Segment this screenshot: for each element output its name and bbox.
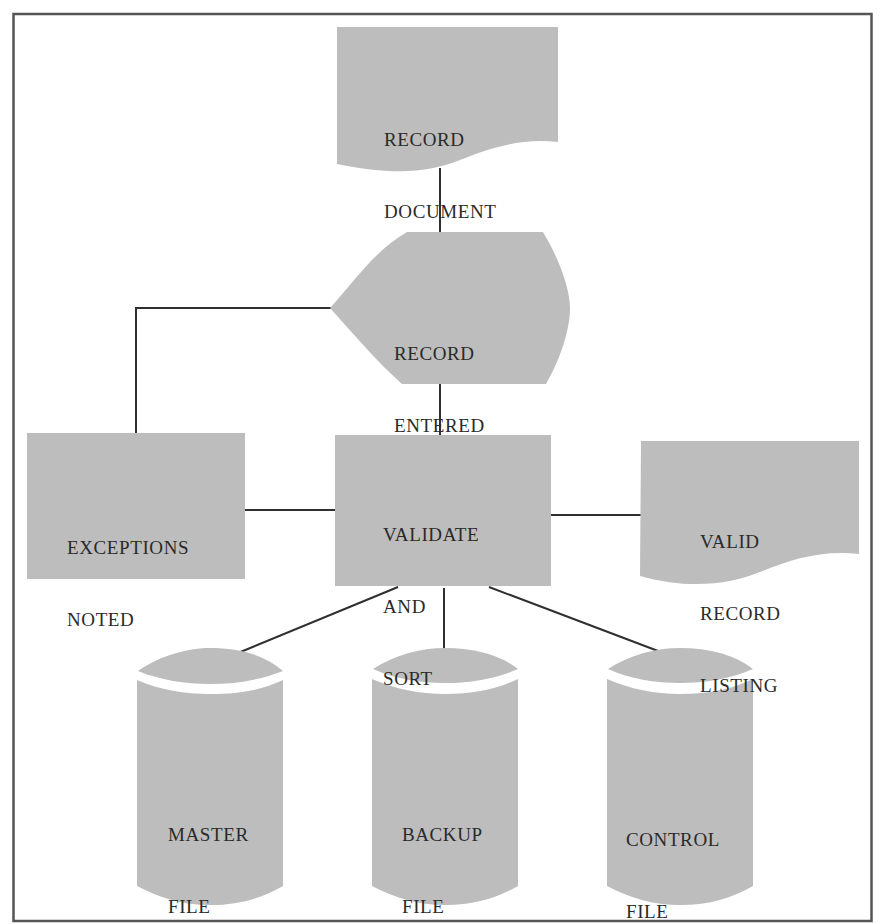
valid-record-listing-line1: VALID [700,530,781,554]
validate-and-sort-line1: VALIDATE [383,523,479,547]
valid-record-listing-line3: LISTING [700,674,781,698]
record-document-line1: RECORD [384,128,496,152]
valid-record-listing-label: VALID RECORD LISTING [700,482,781,722]
edge-validate-to-control [489,587,666,654]
validate-and-sort-label: VALIDATE AND SORT [383,475,479,715]
record-entered-label: RECORD ENTERED [394,294,485,462]
record-entered-line2: ENTERED [394,414,485,438]
validate-and-sort-line3: SORT [383,667,479,691]
backup-file-line1: BACKUP [402,823,483,847]
valid-record-listing-line2: RECORD [700,602,781,626]
edge-entered-to-exceptions [136,308,332,434]
control-file-line2: FILE [626,900,720,924]
validate-and-sort-line2: AND [383,595,479,619]
control-file-label: CONTROL FILE [626,780,720,924]
exceptions-noted-label: EXCEPTIONS NOTED [67,488,189,656]
master-file-line1: MASTER [168,823,249,847]
master-file-label: MASTER FILE [168,775,249,924]
master-file-line2: FILE [168,895,249,919]
exceptions-noted-line2: NOTED [67,608,189,632]
control-file-line1: CONTROL [626,828,720,852]
record-document-label: RECORD DOCUMENT [384,80,496,248]
exceptions-noted-line1: EXCEPTIONS [67,536,189,560]
backup-file-line2: FILE [402,895,483,919]
backup-file-label: BACKUP FILE [402,775,483,924]
record-document-line2: DOCUMENT [384,200,496,224]
edge-validate-to-master [238,587,398,653]
record-entered-line1: RECORD [394,342,485,366]
